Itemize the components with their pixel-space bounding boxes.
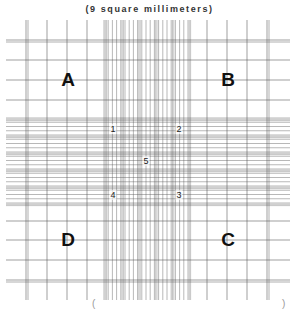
center-square-label-2: 2: [175, 124, 182, 134]
center-square-label-1: 1: [109, 124, 116, 134]
center-square-label-3: 3: [175, 190, 182, 200]
square-label-a: A: [61, 69, 75, 91]
square-label-c: C: [221, 229, 235, 251]
square-label-b: B: [221, 69, 235, 91]
caption-fragment-right: ): [282, 298, 285, 309]
center-square-label-4: 4: [109, 190, 116, 200]
center-square-label-5: 5: [142, 156, 149, 166]
caption-fragment-left: (: [92, 298, 95, 309]
square-label-d: D: [61, 229, 75, 251]
